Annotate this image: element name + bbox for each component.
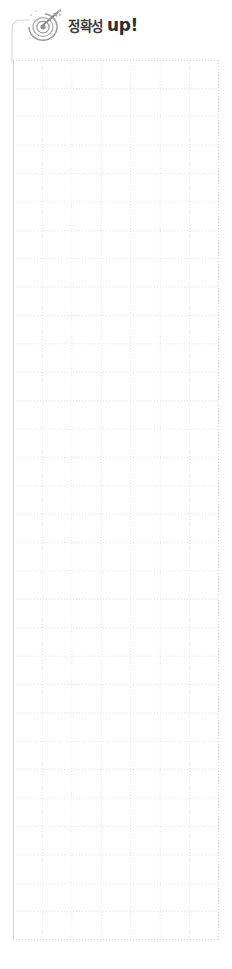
worksheet-grid [13, 60, 219, 940]
grid-lines [13, 60, 219, 940]
page-title: 정확성up! [68, 13, 138, 37]
target-dartboard-icon [27, 7, 65, 43]
header: 정확성up! [0, 0, 232, 52]
worksheet-sidebar-page: 정확성up! [0, 0, 232, 969]
page-title-english: up! [107, 15, 138, 35]
page-title-korean: 정확성 [68, 18, 103, 34]
